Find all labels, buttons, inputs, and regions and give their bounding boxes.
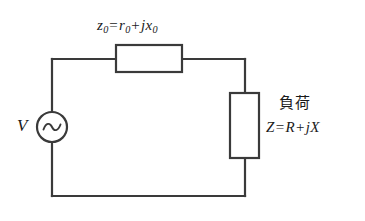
load-reactance: X (310, 119, 319, 135)
load-resistance: R (285, 119, 294, 135)
series-impedance-plus: + (130, 17, 141, 33)
load-impedance-equals: = (275, 119, 286, 135)
load-impedance-box (230, 93, 259, 158)
load-label-block: 負荷 Z=R+jX (266, 96, 320, 136)
ac-source-symbol (37, 112, 67, 142)
load-impedance-plus: + (295, 119, 306, 135)
series-impedance-imaginary-subscript: 0 (152, 24, 157, 35)
source-voltage-label: V (17, 117, 28, 135)
load-impedance-label: Z=R+jX (266, 120, 320, 136)
series-impedance-box (116, 45, 182, 72)
load-name-label: 負荷 (266, 96, 320, 112)
series-impedance-equals: = (108, 17, 119, 33)
series-impedance-label: z0=r0+jx0 (97, 18, 158, 36)
circuit-diagram: z0=r0+jx0 V 負荷 Z=R+jX (0, 0, 365, 221)
load-impedance-symbol: Z (266, 119, 275, 135)
